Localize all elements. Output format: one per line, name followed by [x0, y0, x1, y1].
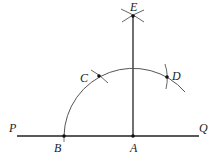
point-d [165, 75, 169, 79]
point-b [62, 134, 66, 138]
point-c [97, 74, 101, 78]
label-q: Q [199, 121, 208, 135]
label-e: E [129, 0, 138, 14]
label-a: A [129, 141, 138, 155]
point-e [131, 14, 135, 18]
label-b: B [54, 141, 62, 155]
geometry-diagram: P Q A B C D E [0, 0, 224, 157]
label-c: C [80, 71, 89, 85]
point-a [131, 134, 135, 138]
label-p: P [8, 121, 17, 135]
label-d: D [171, 69, 181, 83]
